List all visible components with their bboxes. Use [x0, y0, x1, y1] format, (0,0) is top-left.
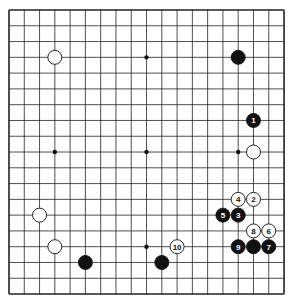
black-stone [231, 50, 245, 64]
white-stone [48, 240, 62, 254]
move-number-label: 2 [251, 195, 256, 204]
white-stone-move-2: 2 [246, 192, 260, 206]
white-stone-move-8: 8 [246, 224, 260, 238]
move-number-label: 6 [267, 227, 272, 236]
star-point [144, 55, 148, 59]
black-stone-move-7: 7 [262, 240, 276, 254]
stone-circle [246, 145, 260, 159]
go-board[interactable]: 12345678910 [0, 0, 292, 303]
stones-layer: 12345678910 [33, 50, 276, 269]
black-stone-move-1: 1 [246, 113, 260, 127]
black-stone-move-3: 3 [231, 208, 245, 222]
white-stone-move-10: 10 [170, 240, 184, 254]
move-number-label: 5 [221, 211, 226, 220]
move-number-label: 10 [173, 243, 182, 252]
black-stone-move-9: 9 [231, 240, 245, 254]
white-stone [48, 50, 62, 64]
white-stone [33, 208, 47, 222]
stone-circle [246, 240, 260, 254]
move-number-label: 3 [236, 211, 241, 220]
white-stone-move-6: 6 [262, 224, 276, 238]
black-stone-move-5: 5 [216, 208, 230, 222]
star-point [53, 150, 57, 154]
move-number-label: 8 [251, 227, 256, 236]
star-point [144, 245, 148, 249]
stone-circle [78, 255, 92, 269]
star-point [236, 150, 240, 154]
black-stone [155, 255, 169, 269]
move-number-label: 7 [267, 243, 272, 252]
white-stone [246, 145, 260, 159]
stone-circle [231, 50, 245, 64]
move-number-label: 9 [236, 243, 241, 252]
white-stone-move-4: 4 [231, 192, 245, 206]
black-stone [78, 255, 92, 269]
stone-circle [48, 240, 62, 254]
star-point [144, 150, 148, 154]
move-number-label: 4 [236, 195, 241, 204]
black-stone [246, 240, 260, 254]
stone-circle [33, 208, 47, 222]
stone-circle [155, 255, 169, 269]
stone-circle [48, 50, 62, 64]
move-number-label: 1 [251, 116, 256, 125]
